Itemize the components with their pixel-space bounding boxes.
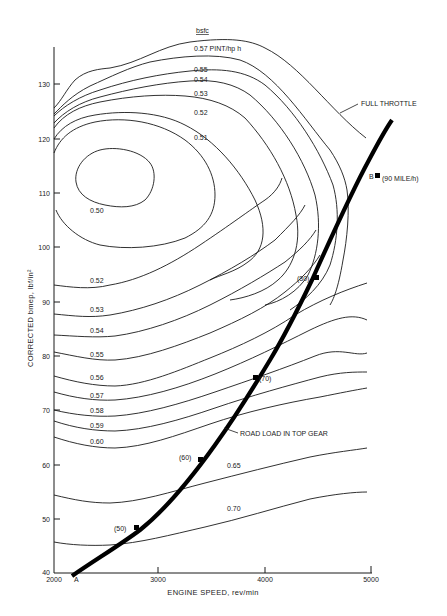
point-b-label: B [369,173,374,180]
label-0.55-lower: 0.55 [90,351,104,358]
contour-0.53-upper [54,95,298,300]
bsfc-contours [54,40,367,546]
marker-90 [375,173,380,178]
y-tick-80: 80 [42,353,50,360]
speed-label-70: (70) [259,375,271,383]
y-axis-label: CORRECTED bmep, lbf/in² [26,269,35,367]
label-0.56-top: 0.55 [194,66,208,73]
label-0.59: 0.59 [90,422,104,429]
label-0.57-lower: 0.57 [90,392,104,399]
label-0.57-top: 0.57 PINT/hp h [194,45,241,53]
x-axis-label: ENGINE SPEED, rev/min [167,588,258,597]
speed-markers [134,173,380,530]
y-tick-40: 40 [42,569,50,576]
road-load-label: ROAD LOAD IN TOP GEAR [240,430,328,437]
x-tick-labels: 2000 3000 4000 5000 [46,576,379,583]
x-tick-4000: 4000 [257,576,273,583]
label-0.60: 0.60 [90,438,104,445]
marker-80 [314,275,319,280]
speed-label-90: (90 MILE/h) [382,175,419,183]
point-a-label: A [74,576,79,583]
label-0.55-top: 0.54 [194,76,208,83]
y-tick-90: 90 [42,299,50,306]
contour-0.54-upper [54,81,319,305]
x-tick-2000: 2000 [46,576,62,583]
y-tick-120: 120 [38,136,50,143]
y-tick-70: 70 [42,407,50,414]
speed-label-50: (50) [114,525,126,533]
label-0.56-lower: 0.56 [90,374,104,381]
full-throttle-label: FULL THROTTLE [361,100,417,107]
label-0.50: 0.50 [90,207,104,214]
contour-0.52-upper [54,112,263,280]
label-0.52-lower: 0.52 [90,277,104,284]
contour-0.53-lower [54,205,305,317]
contour-full-throttle [54,40,366,138]
y-tick-labels: 40 50 60 70 80 90 100 110 120 130 [38,81,50,576]
label-0.54-lower: 0.54 [90,327,104,334]
contour-0.51 [54,120,215,248]
contour-0.52-lower [54,178,282,288]
y-tick-110: 110 [39,190,50,197]
speed-label-80: (80) [297,275,309,283]
label-0.51: 0.51 [194,134,208,141]
x-tick-3000: 3000 [150,576,166,583]
contour-0.56-lower [54,283,367,386]
label-0.70: 0.70 [227,505,241,512]
label-0.65: 0.65 [227,462,241,469]
bsfc-map-chart: 40 50 60 70 80 90 100 110 120 130 2000 3… [0,0,447,616]
contour-0.65 [54,448,367,503]
y-tick-60: 60 [42,462,50,469]
label-0.58: 0.58 [90,407,104,414]
contour-0.50 [76,149,154,207]
label-0.53-top: 0.52 [194,109,208,116]
bsfc-header: bsfc [196,27,209,34]
marker-60 [198,457,203,462]
y-tick-130: 130 [38,81,50,88]
contour-0.70 [54,492,367,545]
y-tick-100: 100 [38,244,50,251]
marker-50 [134,525,139,530]
label-0.53-lower: 0.53 [90,306,104,313]
x-tick-5000: 5000 [363,576,379,583]
marker-70 [253,375,258,380]
label-0.54-top: 0.53 [194,90,208,97]
speed-label-60: (60) [179,454,191,462]
y-tick-50: 50 [42,516,50,523]
